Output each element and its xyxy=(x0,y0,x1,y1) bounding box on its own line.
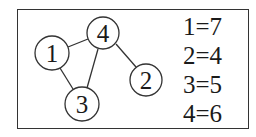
node-label: 1 xyxy=(46,40,59,67)
node-3: 3 xyxy=(65,87,99,121)
node-label: 4 xyxy=(97,20,110,47)
node-4: 4 xyxy=(87,17,119,49)
legend-item-1: 1=7 xyxy=(183,12,243,41)
node-label: 2 xyxy=(140,67,153,94)
legend-item-2: 2=4 xyxy=(183,41,243,70)
node-label: 3 xyxy=(76,91,89,118)
edge-4-3 xyxy=(87,49,98,88)
edge-1-4 xyxy=(68,39,88,47)
edge-1-3 xyxy=(60,68,73,89)
legend-item-3: 3=5 xyxy=(183,70,243,99)
edge-4-2 xyxy=(116,44,136,67)
value-legend: 1=7 2=4 3=5 4=6 xyxy=(183,12,243,128)
node-1: 1 xyxy=(35,36,69,70)
node-2: 2 xyxy=(130,64,162,96)
legend-item-4: 4=6 xyxy=(183,99,243,128)
